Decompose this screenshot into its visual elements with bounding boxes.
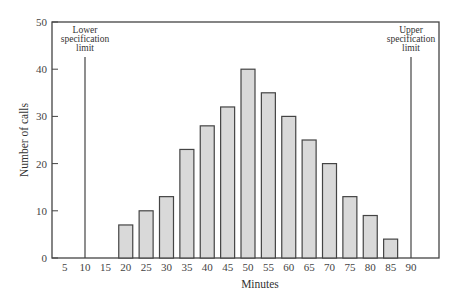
bar xyxy=(200,126,214,258)
x-tick-label: 5 xyxy=(62,261,68,273)
bar xyxy=(282,116,296,258)
y-tick-label: 40 xyxy=(36,63,48,75)
bar xyxy=(221,107,235,258)
upper-spec-label: limit xyxy=(402,43,420,53)
x-tick-label: 75 xyxy=(344,261,356,273)
x-axis: 51015202530354045505560657075808590 xyxy=(62,261,417,273)
lower-spec-label: limit xyxy=(76,43,94,53)
bar xyxy=(302,140,316,258)
y-tick-label: 10 xyxy=(36,205,48,217)
x-tick-label: 70 xyxy=(324,261,336,273)
bar xyxy=(139,211,153,258)
x-tick-label: 40 xyxy=(202,261,214,273)
x-tick-label: 45 xyxy=(222,261,234,273)
y-axis: 01020304050 xyxy=(36,16,58,264)
x-tick-label: 20 xyxy=(120,261,132,273)
x-tick-label: 90 xyxy=(406,261,418,273)
x-tick-label: 10 xyxy=(80,261,92,273)
x-tick-label: 65 xyxy=(304,261,316,273)
bar xyxy=(323,164,337,258)
x-tick-label: 30 xyxy=(161,261,173,273)
y-tick-label: 20 xyxy=(36,158,48,170)
x-tick-label: 35 xyxy=(181,261,193,273)
bar xyxy=(119,225,133,258)
y-tick-label: 50 xyxy=(36,16,48,28)
x-tick-label: 85 xyxy=(385,261,397,273)
y-axis-title: Number of calls xyxy=(18,102,30,177)
x-axis-title: Minutes xyxy=(241,278,279,290)
x-tick-label: 50 xyxy=(243,261,255,273)
x-tick-label: 60 xyxy=(283,261,295,273)
x-tick-label: 15 xyxy=(100,261,112,273)
y-tick-label: 30 xyxy=(36,110,48,122)
bar xyxy=(384,239,398,258)
x-tick-label: 25 xyxy=(141,261,153,273)
bar xyxy=(261,93,275,258)
x-tick-label: 55 xyxy=(263,261,275,273)
bars xyxy=(119,69,398,258)
bar xyxy=(160,197,174,258)
bar xyxy=(241,69,255,258)
bar xyxy=(363,216,377,258)
bar xyxy=(343,197,357,258)
histogram-chart: 01020304050 5101520253035404550556065707… xyxy=(0,0,461,306)
bar xyxy=(180,149,194,258)
x-tick-label: 80 xyxy=(365,261,377,273)
y-tick-label: 0 xyxy=(42,252,48,264)
